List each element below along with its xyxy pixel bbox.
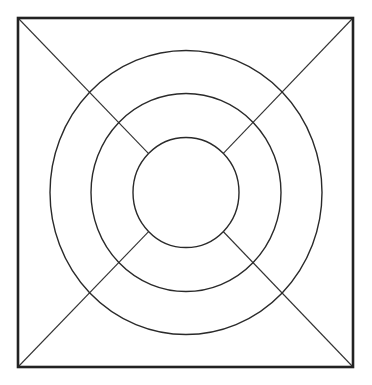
diagram-canvas (0, 0, 372, 385)
